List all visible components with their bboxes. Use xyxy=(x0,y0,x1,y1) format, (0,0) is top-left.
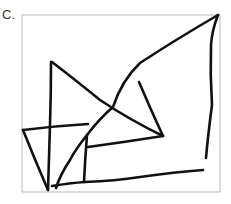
left-horizontal-line xyxy=(23,124,88,130)
left-triangle-side xyxy=(23,130,48,190)
right-vertical-line xyxy=(206,15,218,158)
inner-vertical-line xyxy=(84,135,87,182)
inner-horizontal-line xyxy=(88,136,163,147)
right-triangle-side xyxy=(139,82,163,136)
bottom-line xyxy=(52,170,203,186)
hand-drawn-figure xyxy=(0,0,231,204)
long-diagonal-line xyxy=(56,15,218,188)
